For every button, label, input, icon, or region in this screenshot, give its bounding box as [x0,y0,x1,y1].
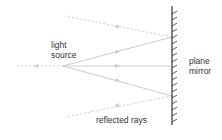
light-source-label: light source [51,40,77,60]
arrow-icon [114,25,119,29]
arrow-icon [115,64,120,68]
plane-mirror-label: plane mirror [189,56,211,76]
label-line: source [51,50,77,60]
arrow-icon [34,64,38,68]
reflected-rays-label: reflected rays [96,115,147,125]
mirror-hatching [172,11,177,122]
label-line: light [51,40,77,50]
label-line: mirror [189,66,211,76]
arrow-icon [114,103,119,107]
label-line: plane [189,56,211,66]
